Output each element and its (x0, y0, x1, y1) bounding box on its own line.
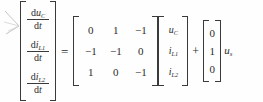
state-entry-3: iL2 (162, 62, 184, 83)
matrix-cell-r2c1: −1 (78, 46, 103, 57)
state-sub-3: L2 (171, 70, 178, 77)
matrix-equation: duC dt diL1 dt diL (20, 0, 232, 102)
state-entry-1: uC (162, 20, 184, 41)
fraction-di_L1-dt: diL1 dt (27, 40, 49, 64)
matrix-cell-r3c2: 0 (103, 67, 128, 78)
state-entry-2: iL1 (162, 41, 184, 62)
state-sub-2: L1 (171, 49, 178, 56)
equation-canvas: duC dt diL1 dt diL (0, 0, 263, 102)
matrix-cell-r2c3: 0 (128, 46, 153, 57)
matrix-cell-r3c1: 1 (78, 67, 103, 78)
derivative-sub-3: L2 (39, 75, 46, 82)
matrix-row: 0 1 −1 (78, 20, 153, 41)
derivative-entry-1: duC dt (27, 3, 49, 35)
plus-sign: + (188, 45, 203, 57)
matrix-cell-r1c2: 1 (103, 25, 128, 36)
fraction-di_L2-dt: diL2 dt (27, 72, 49, 96)
input-entry-2: 1 (207, 42, 217, 60)
fraction-du_C-dt: duC dt (27, 8, 49, 32)
input-variable-subscript: s (230, 49, 233, 56)
input-cell-3: 0 (207, 64, 217, 75)
derivative-sub-2: L1 (39, 43, 46, 50)
matrix-row: 1 0 −1 (78, 62, 153, 83)
input-cell-2: 1 (207, 46, 217, 57)
coefficient-matrix: 0 1 −1 −1 −1 0 1 0 −1 (73, 16, 158, 86)
matrix-cell-r1c1: 0 (78, 25, 103, 36)
input-vector: 0 1 0 (203, 20, 221, 82)
state-sub-1: C (174, 28, 178, 35)
derivative-entry-2: diL1 dt (27, 35, 49, 67)
input-entry-1: 0 (207, 24, 217, 42)
time-var-2: t (39, 52, 42, 63)
matrix-row: −1 −1 0 (78, 41, 153, 62)
matrix-cell-r3c3: −1 (128, 67, 153, 78)
time-var-3: t (39, 84, 42, 95)
time-var-1: t (39, 20, 42, 31)
matrix-cell-r1c3: −1 (128, 25, 153, 36)
input-entry-3: 0 (207, 60, 217, 78)
derivative-entry-3: diL2 dt (27, 67, 49, 99)
input-variable: us (221, 45, 232, 58)
state-vector: uC iL1 iL2 (158, 16, 188, 86)
input-cell-1: 0 (207, 28, 217, 39)
equals-sign: = (56, 45, 73, 58)
matrix-cell-r2c2: −1 (103, 46, 128, 57)
derivative-sub-1: C (41, 11, 45, 18)
state-derivative-vector: duC dt diL1 dt diL (20, 1, 56, 101)
